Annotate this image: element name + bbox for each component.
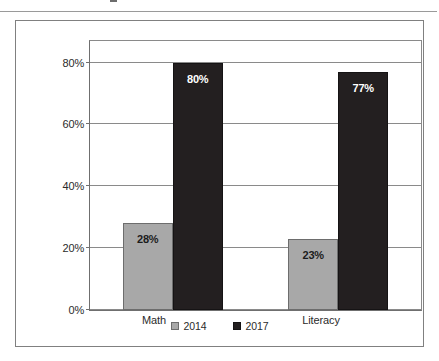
legend-item-2014[interactable]: 2014 — [171, 320, 207, 332]
bar-value-label-math-2017: 80% — [174, 73, 222, 85]
y-axis-tick-mark — [86, 123, 90, 124]
plot-area: 0%20%40%60%80%28%80%23%77% — [89, 40, 422, 311]
y-axis-label-40pct: 40% — [63, 180, 84, 192]
legend-item-2017[interactable]: 2017 — [233, 320, 269, 332]
y-axis-label-80pct: 80% — [63, 57, 84, 69]
y-axis-tick-mark — [86, 309, 90, 310]
y-axis-label-0pct: 0% — [69, 304, 85, 316]
black-square-swatch-icon — [233, 322, 241, 330]
bar-value-label-literacy-2014: 23% — [289, 249, 337, 261]
bar-math-2014[interactable]: 28% — [123, 223, 173, 310]
bar-literacy-2017[interactable]: 77% — [338, 72, 388, 310]
gray-square-swatch-icon — [171, 322, 179, 330]
y-axis-tick-mark — [86, 62, 90, 63]
y-axis-tick-mark — [86, 247, 90, 248]
y-axis-label-60pct: 60% — [63, 118, 84, 130]
bar-value-label-math-2014: 28% — [124, 233, 172, 245]
bar-literacy-2014[interactable]: 23% — [288, 239, 338, 310]
legend-label-2017: 2017 — [246, 320, 269, 332]
chart-figure-frame: 0%20%40%60%80%28%80%23%77% Math Literacy… — [15, 20, 424, 347]
gridline-80pct — [90, 62, 421, 63]
y-axis-tick-mark — [86, 185, 90, 186]
bar-value-label-literacy-2017: 77% — [339, 82, 387, 94]
y-axis-label-20pct: 20% — [63, 242, 84, 254]
clipped-title-descender — [110, 0, 117, 2]
bar-math-2017[interactable]: 80% — [173, 63, 223, 310]
chart-legend: 2014 2017 — [16, 320, 423, 332]
horizontal-rule — [0, 11, 437, 12]
clipped-top-strip — [0, 0, 439, 13]
legend-label-2014: 2014 — [184, 320, 207, 332]
